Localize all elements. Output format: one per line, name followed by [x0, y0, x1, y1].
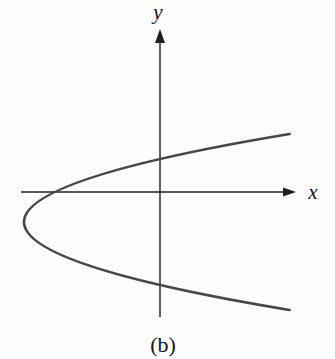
parabola-curve	[24, 134, 290, 310]
figure-canvas: x y (b)	[0, 0, 335, 359]
y-axis-arrowhead-icon	[155, 29, 165, 43]
x-axis-label: x	[307, 180, 318, 204]
parabola-figure: x y (b)	[0, 0, 335, 359]
y-axis-label: y	[151, 0, 163, 24]
figure-caption: (b)	[150, 332, 176, 357]
x-axis-arrowhead-icon	[283, 188, 296, 197]
